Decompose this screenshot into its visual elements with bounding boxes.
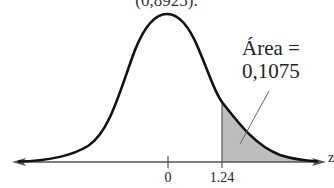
tick-label-0: 0 bbox=[165, 170, 172, 186]
area-label-line2: 0,1075 bbox=[242, 60, 300, 83]
tick-label-1-24: 1.24 bbox=[210, 170, 235, 186]
area-label-line1: Área = bbox=[242, 37, 300, 60]
axis-variable-label: z bbox=[328, 150, 334, 166]
area-annotation: Área = 0,1075 bbox=[242, 37, 300, 83]
shaded-area bbox=[222, 102, 320, 162]
leader-line bbox=[240, 91, 269, 144]
